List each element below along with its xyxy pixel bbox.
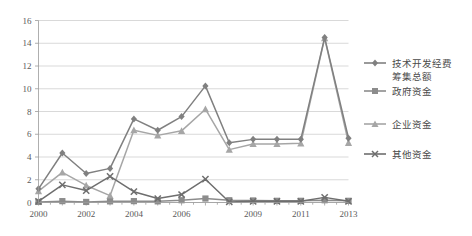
legend-label: 技术开发经费 xyxy=(392,58,452,69)
x-tick-label: 2013 xyxy=(340,209,359,219)
square-marker xyxy=(372,88,378,94)
y-tick-label: 4 xyxy=(27,152,32,162)
y-tick-label: 2 xyxy=(27,175,32,185)
y-tick-label: 16 xyxy=(23,16,33,26)
x-tick-label: 2000 xyxy=(30,209,49,219)
y-tick-label: 12 xyxy=(23,61,32,71)
square-marker xyxy=(83,199,89,205)
line-chart: 0246810121416 20002002200420062009201120… xyxy=(0,0,472,236)
square-marker xyxy=(107,198,113,204)
x-tick-label: 2006 xyxy=(173,209,192,219)
y-tick-label: 10 xyxy=(23,84,33,94)
square-marker xyxy=(202,195,208,201)
legend-label: 其他资金 xyxy=(392,149,432,160)
y-tick-label: 6 xyxy=(27,129,32,139)
chart-canvas: 0246810121416 20002002200420062009201120… xyxy=(0,0,472,236)
legend-label-line2: 筹集总额 xyxy=(392,71,432,82)
legend-label: 政府资金 xyxy=(392,86,432,97)
x-tick-label: 2002 xyxy=(77,209,95,219)
x-tick-label: 2009 xyxy=(244,209,263,219)
x-tick-label: 2004 xyxy=(125,209,144,219)
y-tick-label: 0 xyxy=(27,198,32,208)
square-marker xyxy=(131,198,137,204)
y-tick-label: 8 xyxy=(27,107,32,117)
square-marker xyxy=(59,198,65,204)
legend-label: 企业资金 xyxy=(392,119,432,130)
x-tick-label: 2011 xyxy=(292,209,310,219)
y-tick-label: 14 xyxy=(23,38,33,48)
